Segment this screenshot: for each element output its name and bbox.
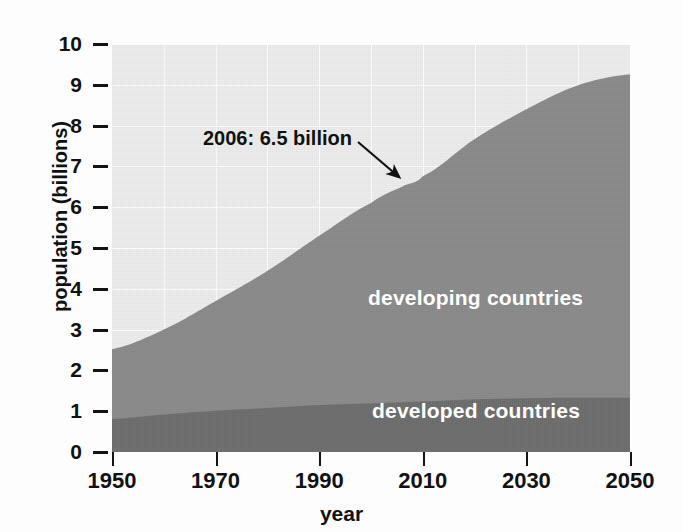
y-axis-tick	[93, 206, 108, 209]
y-axis-tick	[93, 451, 108, 454]
x-axis-title: year	[0, 502, 683, 526]
x-axis-tick	[216, 452, 218, 466]
x-axis-tick	[526, 452, 528, 466]
x-axis-tick	[423, 452, 425, 466]
stacked-area-series	[112, 44, 630, 452]
y-axis-tick	[93, 410, 108, 413]
y-axis-title: population (billions)	[49, 67, 72, 367]
y-axis-tick	[93, 329, 108, 332]
series-label-developing-countries: developing countries	[368, 286, 583, 310]
y-axis-tick	[93, 43, 108, 46]
x-axis-tick	[319, 452, 321, 466]
y-axis-tick-label: 1	[52, 400, 82, 421]
chart-figure: 012345678910 population (billions) 19501…	[0, 0, 683, 532]
y-axis-tick	[93, 247, 108, 250]
x-axis-tick-label: 1950	[67, 470, 157, 492]
y-axis-tick-label: 10	[52, 33, 82, 54]
y-axis-tick	[93, 369, 108, 372]
x-axis-tick-label: 1990	[274, 470, 364, 492]
y-axis-tick	[93, 84, 108, 87]
y-axis-tick-label: 0	[52, 441, 82, 462]
y-axis-tick	[93, 288, 108, 291]
series-label-developed-countries: developed countries	[372, 399, 580, 423]
area-developing-countries	[112, 74, 630, 452]
plot-area	[112, 44, 630, 452]
y-axis-tick	[93, 165, 108, 168]
x-axis-tick-label: 2010	[378, 470, 468, 492]
x-axis-tick-label: 2050	[585, 470, 675, 492]
x-axis-tick	[630, 452, 632, 466]
x-axis-tick	[112, 452, 114, 466]
y-axis-tick	[93, 125, 108, 128]
annotation-2006-label: 2006: 6.5 billion	[203, 127, 352, 150]
x-axis-tick-label: 2030	[481, 470, 571, 492]
annotation-arrow-icon	[355, 138, 415, 188]
x-axis-tick-label: 1970	[171, 470, 261, 492]
